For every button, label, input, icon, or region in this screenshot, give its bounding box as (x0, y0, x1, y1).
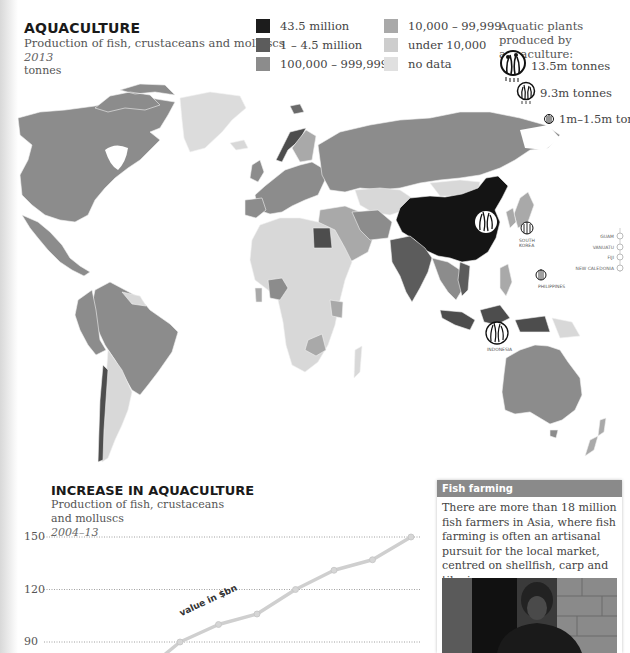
region-russia (318, 112, 560, 192)
series-line-value (165, 537, 411, 653)
legend-label: 43.5 million (280, 19, 349, 33)
philippines-seaweed-marker (536, 269, 546, 280)
fish-farming-sidebox: Fish farming There are more than 18 mill… (437, 480, 622, 653)
legend-item: no data (384, 57, 452, 71)
legend-label: 10,000 – 99,999 (408, 19, 502, 33)
region-new-zealand (585, 418, 606, 456)
region-egypt (313, 228, 332, 248)
fish-farmer-photo (442, 578, 617, 653)
china-seaweed-marker (475, 211, 497, 233)
legend-swatch (384, 38, 398, 52)
region-mexico-central-america (22, 215, 90, 276)
map-title-block: AQUACULTURE Production of fish, crustace… (24, 20, 285, 78)
map-subtitle: Production of fish, crustaceans and moll… (24, 36, 285, 50)
region-australia (502, 345, 582, 424)
region-iberia (245, 198, 266, 218)
world-choropleth-map: SOUTH KOREA PHILIPPINES INDONESIA GUAM V… (0, 76, 630, 466)
map-year: 2013 (24, 50, 285, 64)
svg-text:KOREA: KOREA (519, 243, 535, 248)
aquaculture-line-chart: 150 120 90 value in $bn (0, 525, 420, 653)
region-uk (250, 160, 264, 182)
label-fiji: FIJI (607, 255, 614, 260)
legend-item: 43.5 million (256, 19, 349, 33)
chart-subtitle-line2: and molluscs (51, 512, 254, 526)
south-korea-seaweed-marker (521, 222, 533, 234)
legend-item: 100,000 – 999,999 (256, 57, 388, 71)
pacific-islands-callout: GUAM VANUATU FIJI NEW CALEDONIA (576, 228, 623, 272)
region-svalbard (290, 104, 304, 114)
plant-legend-label: 13.5m tonnes (531, 59, 610, 73)
region-southeast-asia (432, 258, 462, 300)
region-madagascar (354, 346, 362, 378)
region-africa (250, 218, 352, 372)
legend-item: 1 – 4.5 million (256, 38, 362, 52)
legend-swatch (384, 19, 398, 33)
legend-swatch (256, 19, 270, 33)
sidebox-header: Fish farming (437, 480, 622, 497)
chart-plot-area (0, 525, 420, 653)
legend-swatch (384, 57, 398, 71)
region-papua-new-guinea (552, 318, 580, 338)
region-europe (255, 162, 325, 214)
label-indonesia: INDONESIA (487, 347, 513, 352)
aquatic-plants-legend: Aquatic plants produced by aquaculture: … (499, 19, 629, 61)
chart-title: INCREASE IN AQUACULTURE (51, 483, 254, 498)
legend-label: 1 – 4.5 million (280, 38, 362, 52)
legend-label: no data (408, 57, 452, 71)
region-philippines (500, 264, 512, 296)
label-vanuatu: VANUATU (593, 245, 614, 250)
legend-swatch (256, 38, 270, 52)
legend-item: under 10,000 (384, 38, 486, 52)
legend-item: 10,000 – 99,999 (384, 19, 502, 33)
legend-label: under 10,000 (408, 38, 486, 52)
region-tasmania (550, 430, 558, 438)
legend-swatch (256, 57, 270, 71)
region-north-america (18, 98, 175, 222)
region-ghana (255, 288, 262, 302)
region-uganda-kenya (330, 300, 343, 318)
legend-label: 100,000 – 999,999 (280, 57, 388, 71)
label-guam: GUAM (600, 234, 614, 239)
map-title: AQUACULTURE (24, 20, 285, 36)
chart-subtitle-line1: Production of fish, crustaceans (51, 498, 254, 512)
label-new-caledonia: NEW CALEDONIA (576, 266, 615, 271)
label-philippines: PHILIPPINES (538, 284, 565, 289)
region-korea (506, 208, 516, 228)
indonesia-seaweed-marker (486, 322, 508, 344)
